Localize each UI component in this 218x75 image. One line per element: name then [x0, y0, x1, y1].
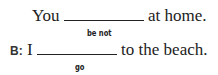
sentence-1: You at home. [32, 6, 207, 26]
speaker-label-b: B: [10, 44, 23, 58]
sentence-1-before: You [32, 6, 60, 25]
sentence-2-before: I [27, 40, 33, 59]
sentence-2-after: to the beach. [121, 40, 207, 59]
hint-2: go [75, 62, 85, 72]
sentence-2: B: I to the beach. [10, 40, 207, 60]
sentence-1-after: at home. [148, 6, 207, 25]
hint-1: be not [87, 28, 112, 38]
answer-blank-1[interactable] [64, 19, 144, 21]
answer-blank-2[interactable] [37, 53, 117, 55]
